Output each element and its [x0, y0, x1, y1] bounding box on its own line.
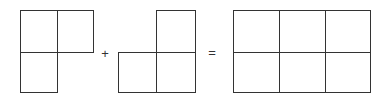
shape-equation-diagram — [0, 0, 389, 100]
cell — [58, 11, 94, 53]
cell — [119, 53, 157, 93]
plus-sign: + — [101, 47, 109, 60]
cell — [157, 11, 196, 53]
cell — [21, 11, 58, 53]
l-shape-1 — [21, 11, 94, 93]
result-rectangle — [234, 11, 371, 93]
l-shape-2 — [119, 11, 196, 93]
cell — [157, 53, 196, 93]
cell — [21, 53, 58, 93]
equals-sign: = — [208, 46, 216, 59]
